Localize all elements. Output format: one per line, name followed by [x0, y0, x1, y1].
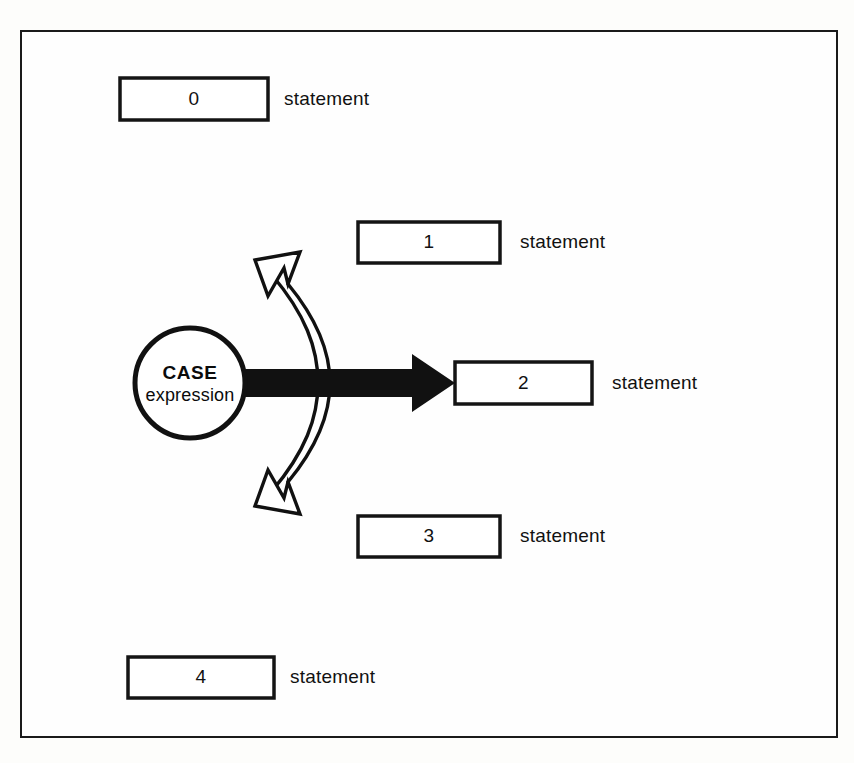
statement-box-0-label: statement: [284, 88, 369, 110]
statement-box-1-label: statement: [520, 231, 605, 253]
statement-box-3-label: statement: [520, 525, 605, 547]
diagram-canvas: [0, 0, 854, 763]
statement-box-2-number: 2: [455, 372, 592, 394]
statement-box-0-number: 0: [120, 88, 268, 110]
case-expression-label: expression: [126, 385, 254, 406]
selected-branch-arrow: [228, 354, 455, 412]
case-keyword: CASE: [134, 362, 246, 384]
diagram-page: CASE expression 0 statement 1 statement …: [0, 0, 854, 763]
statement-box-4-label: statement: [290, 666, 375, 688]
statement-box-2-label: statement: [612, 372, 697, 394]
statement-box-1-number: 1: [358, 231, 500, 253]
statement-box-3-number: 3: [358, 525, 500, 547]
statement-box-4-number: 4: [128, 666, 274, 688]
